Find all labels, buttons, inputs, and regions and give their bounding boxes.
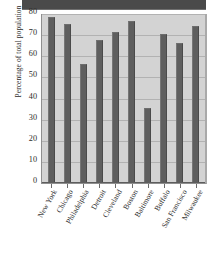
x-label-slot: San Francisco xyxy=(177,188,184,260)
y-tick-label: 40 xyxy=(29,93,37,101)
x-label-slot: Baltimore xyxy=(145,188,152,260)
plot-area xyxy=(41,14,207,184)
x-label-slot: Milwaukee xyxy=(193,188,200,260)
bar xyxy=(48,17,55,182)
x-label-slot: Philadelphia xyxy=(80,188,87,260)
y-axis-tick-labels: 80706050403020100 xyxy=(20,12,37,187)
bar xyxy=(176,43,183,182)
y-tick-label: 20 xyxy=(29,135,37,143)
x-label-slot: New York xyxy=(48,188,55,260)
x-label-slot: Cleveland xyxy=(112,188,119,260)
bar-series xyxy=(41,14,205,182)
y-tick-label: 10 xyxy=(29,156,37,164)
bar xyxy=(96,40,103,182)
x-axis-line xyxy=(41,182,205,183)
x-tick-label: New York xyxy=(36,188,59,219)
y-tick-label: 60 xyxy=(29,50,37,58)
bar xyxy=(64,24,71,182)
bar xyxy=(112,32,119,182)
y-tick-label: 50 xyxy=(29,71,37,79)
bar xyxy=(192,26,199,182)
x-axis-category-labels: New YorkChicagoPhiladelphiaDetroitClevel… xyxy=(41,188,207,260)
bar xyxy=(128,21,135,182)
y-tick-label: 80 xyxy=(29,8,37,16)
scan-artifact-band xyxy=(22,0,206,10)
bar xyxy=(80,64,87,182)
y-tick-label: 30 xyxy=(29,114,37,122)
x-label-slot: Detroit xyxy=(96,188,103,260)
x-label-slot: Boston xyxy=(129,188,136,260)
y-tick-label: 0 xyxy=(33,177,37,185)
bar-chart-figure: Percentage of total population 807060504… xyxy=(0,0,216,261)
bar xyxy=(144,108,151,182)
y-tick-label: 70 xyxy=(29,29,37,37)
bar xyxy=(160,34,167,182)
